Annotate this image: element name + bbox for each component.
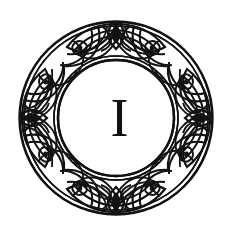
celtic-knot-ring-illustration [0,0,233,235]
decorative-initial-figure: I [0,0,233,235]
